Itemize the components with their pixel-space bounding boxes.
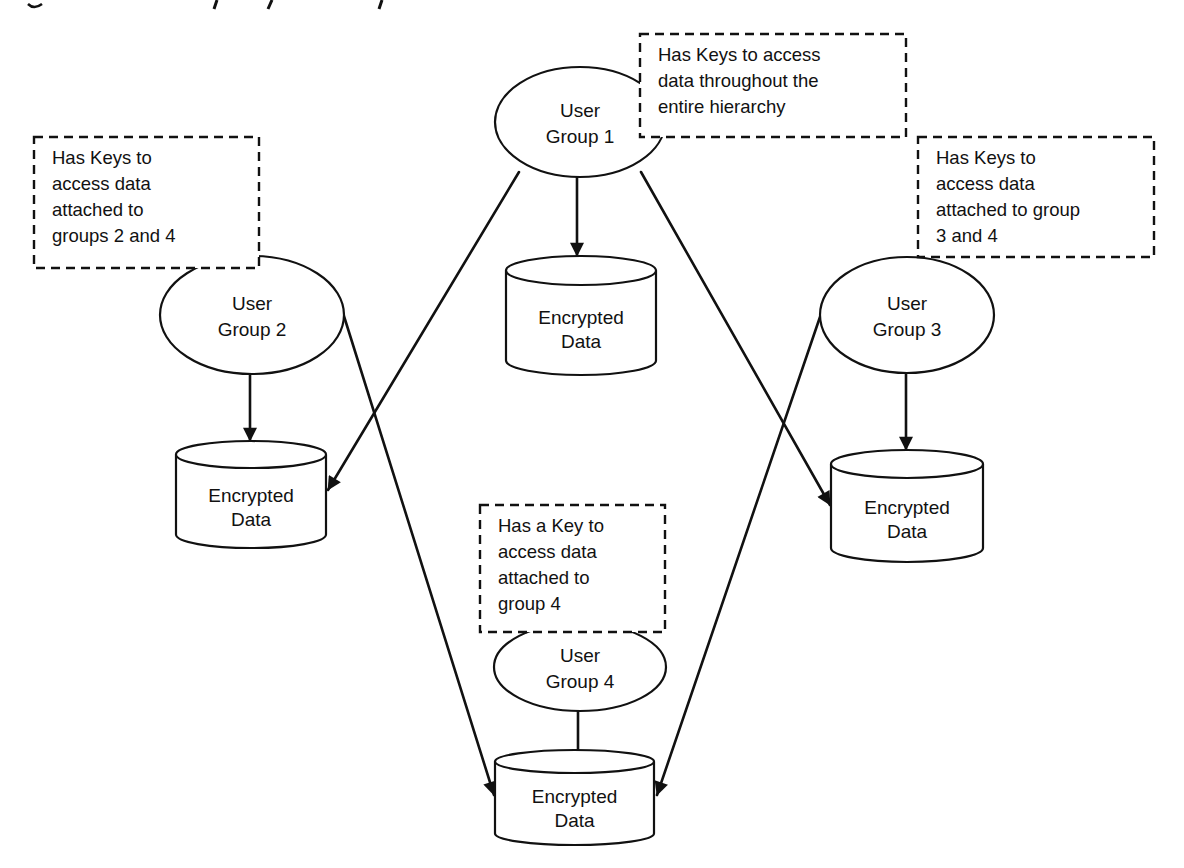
connector-g1-to-d2: [328, 172, 519, 490]
label-line: User: [560, 100, 601, 121]
label-line: Encrypted: [864, 497, 950, 518]
user-group-ellipse: [160, 256, 344, 374]
label-line: Data: [887, 521, 928, 542]
key-access-note: Has a Key toaccess dataattached togroup …: [480, 505, 665, 632]
encrypted-data-store: EncryptedData: [831, 450, 983, 562]
label-line: attached to: [52, 199, 144, 220]
connector-g2-to-d4: [343, 313, 494, 795]
label-line: Encrypted: [532, 786, 618, 807]
label-line: groups 2 and 4: [52, 225, 175, 246]
user-group-4: UserGroup 4: [494, 623, 666, 711]
label-line: Group 2: [218, 319, 287, 340]
label-line: 3 and 4: [936, 225, 998, 246]
label-line: User: [232, 293, 273, 314]
label-line: Has Keys to access: [658, 44, 820, 65]
connector-g3-to-d4: [657, 314, 821, 795]
clipped-figure-caption: [0, 0, 1184, 12]
label-line: Has Keys to: [52, 147, 152, 168]
key-access-note: Has Keys to accessdata throughout theent…: [640, 34, 906, 137]
label-line: Group 4: [546, 671, 615, 692]
encrypted-data-store: EncryptedData: [495, 750, 654, 845]
label-line: Has Keys to: [936, 147, 1036, 168]
cylinder-top: [831, 450, 983, 478]
label-line: group 4: [498, 593, 561, 614]
user-group-2: UserGroup 2: [160, 256, 344, 374]
label-line: access data: [498, 541, 597, 562]
key-hierarchy-diagram: EncryptedDataEncryptedDataEncryptedDataE…: [0, 0, 1184, 868]
key-access-note: Has Keys toaccess dataattached to group3…: [918, 137, 1154, 257]
cylinder-top: [495, 750, 654, 773]
label-line: User: [887, 293, 928, 314]
user-group-3: UserGroup 3: [820, 257, 994, 373]
label-line: User: [560, 645, 601, 666]
label-line: Encrypted: [538, 307, 624, 328]
key-access-note: Has Keys toaccess dataattached togroups …: [34, 137, 259, 268]
connector-g1-to-d3: [641, 172, 830, 505]
user-group-ellipse: [820, 257, 994, 373]
encrypted-data-store: EncryptedData: [506, 256, 656, 375]
label-line: data throughout the: [658, 70, 818, 91]
cylinder-top: [506, 256, 656, 285]
user-group-ellipse: [494, 623, 666, 711]
label-line: attached to: [498, 567, 590, 588]
label-line: access data: [936, 173, 1035, 194]
encrypted-data-store: EncryptedData: [176, 441, 326, 548]
label-line: Data: [561, 331, 602, 352]
label-line: access data: [52, 173, 151, 194]
label-line: Group 3: [873, 319, 942, 340]
cylinder-top: [176, 441, 326, 468]
label-line: attached to group: [936, 199, 1080, 220]
label-line: entire hierarchy: [658, 96, 786, 117]
label-line: Has a Key to: [498, 515, 604, 536]
label-line: Data: [554, 810, 595, 831]
label-line: Data: [231, 509, 272, 530]
label-line: Group 1: [546, 126, 615, 147]
label-line: Encrypted: [208, 485, 294, 506]
